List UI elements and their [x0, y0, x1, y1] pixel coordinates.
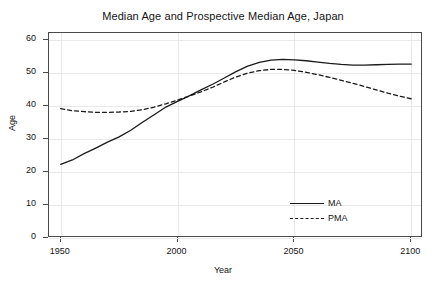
x-axis-label: Year [0, 265, 446, 275]
x-tick-label: 2100 [390, 246, 430, 256]
y-tick-label: 0 [10, 231, 36, 241]
gridline-horizontal [49, 238, 421, 239]
legend-item-ma: MA [290, 196, 376, 211]
y-tick-label: 40 [10, 99, 36, 109]
legend-item-pma: PMA [290, 211, 376, 226]
y-tick-label: 10 [10, 198, 36, 208]
legend-label-ma: MA [328, 196, 342, 211]
x-tick-label: 2050 [273, 246, 313, 256]
chart-figure: Median Age and Prospective Median Age, J… [0, 0, 446, 283]
legend-swatch-solid-icon [290, 203, 324, 204]
x-tick-label: 1950 [40, 246, 80, 256]
y-tick-label: 60 [10, 33, 36, 43]
legend-swatch-dashed-icon [290, 218, 324, 219]
y-tick-label: 30 [10, 132, 36, 142]
y-tick-label: 20 [10, 165, 36, 175]
chart-legend: MA PMA [290, 196, 376, 226]
chart-title: Median Age and Prospective Median Age, J… [0, 10, 446, 22]
y-tick-mark [43, 237, 48, 238]
y-tick-label: 50 [10, 66, 36, 76]
x-tick-label: 2000 [157, 246, 197, 256]
legend-label-pma: PMA [328, 211, 348, 226]
series-line-pma [61, 69, 412, 112]
